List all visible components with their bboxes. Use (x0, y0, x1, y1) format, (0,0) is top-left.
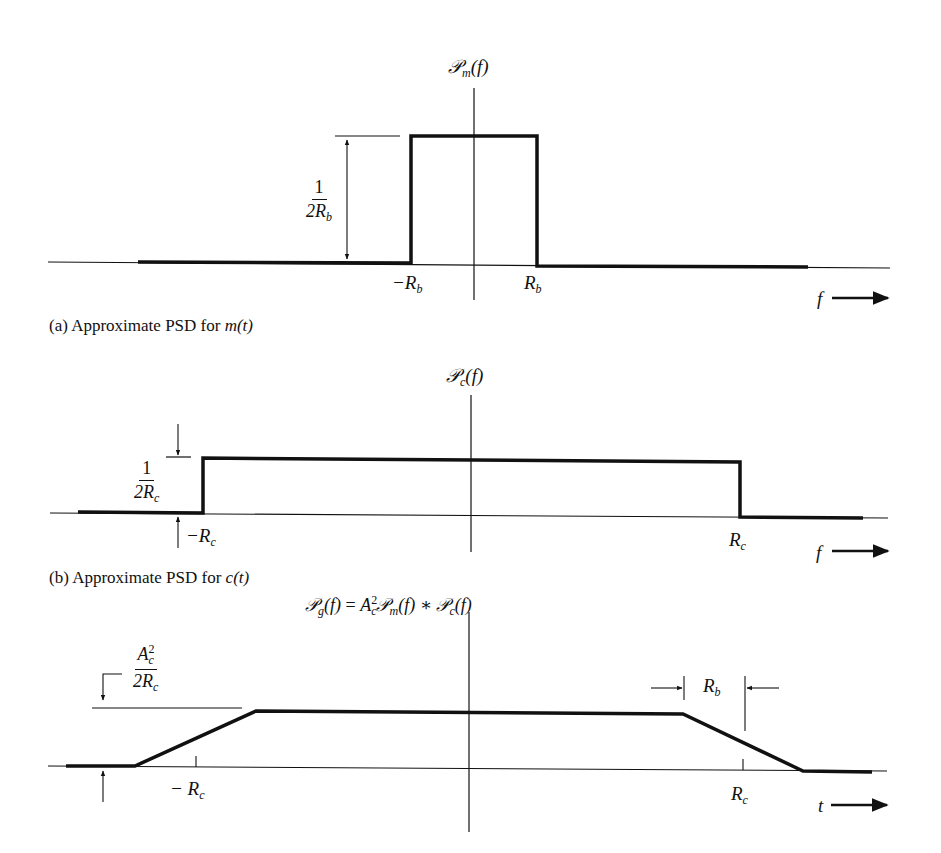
panel-c-title: 𝒫g(f) = A2c𝒫m(f) ∗ 𝒫c(f) (305, 594, 472, 617)
panel-b-caption: (b) Approximate PSD for c(t) (49, 568, 249, 588)
panel-b-axis-var: f (816, 543, 821, 562)
panel-b-title: 𝒫c(f) (446, 366, 483, 388)
panel-b-tick-rc: Rc (729, 530, 746, 552)
panel-a-plot (48, 88, 890, 300)
panel-c-height-bracket (103, 674, 122, 700)
panel-a-tick-rb: Rb (524, 273, 542, 295)
panel-c-tick-neg-rc: − Rc (170, 779, 205, 801)
panel-a-title: 𝒫m(f) (448, 57, 489, 79)
panel-a-tick-neg-rb: −Rb (392, 273, 422, 295)
diagram-canvas (0, 0, 941, 853)
panel-a-psd-curve (138, 136, 808, 267)
panel-a-caption: (a) Approximate PSD for m(t) (49, 316, 253, 336)
panel-a-height-label: 1 2Rb (306, 178, 332, 223)
panel-c-axis-var: t (818, 796, 823, 815)
panel-c-t-axis (48, 766, 887, 771)
panel-c-tick-rc: Rc (731, 784, 748, 806)
panel-c-height-label: A2c 2Rc (133, 643, 158, 693)
panel-b-height-label: 1 2Rc (134, 459, 159, 504)
panel-c-width-label: Rb (703, 676, 721, 698)
panel-b-plot (50, 395, 888, 552)
panel-a-axis-var: f (817, 289, 822, 308)
panel-b-tick-neg-rc: −Rc (186, 526, 216, 548)
